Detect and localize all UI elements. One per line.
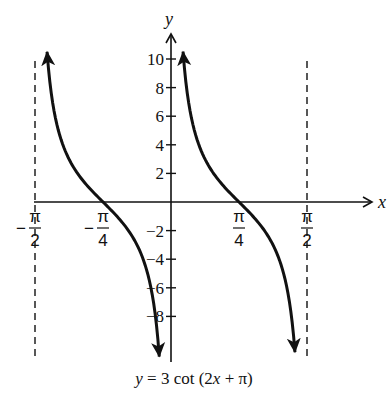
x-tick-label: π4− bbox=[84, 207, 109, 250]
y-tick-label: −4 bbox=[146, 250, 165, 269]
x-axis-label: x bbox=[377, 192, 386, 212]
x-tick-label: π4 bbox=[233, 207, 245, 250]
svg-text:−: − bbox=[16, 219, 26, 238]
y-tick-label: 8 bbox=[156, 79, 165, 98]
svg-text:π: π bbox=[301, 207, 313, 226]
x-axis-ticks: π2−π4−π4π2 bbox=[16, 207, 313, 250]
svg-text:π: π bbox=[97, 207, 109, 226]
axes bbox=[34, 34, 372, 362]
svg-text:π: π bbox=[29, 207, 41, 226]
y-tick-label: 6 bbox=[156, 107, 165, 126]
y-tick-label: 2 bbox=[156, 164, 165, 183]
y-tick-label: 10 bbox=[147, 50, 164, 69]
svg-text:π: π bbox=[233, 207, 245, 226]
svg-text:2: 2 bbox=[30, 231, 39, 250]
y-tick-label: 4 bbox=[156, 136, 165, 155]
svg-text:−: − bbox=[84, 219, 94, 238]
curve-branch-1 bbox=[47, 52, 159, 357]
svg-text:4: 4 bbox=[98, 231, 107, 250]
svg-text:2: 2 bbox=[302, 231, 311, 250]
chart-caption: y = 3 cot (2x + π) bbox=[133, 369, 252, 388]
x-tick-label: π2− bbox=[16, 207, 41, 250]
x-tick-label: π2 bbox=[301, 207, 313, 250]
cotangent-graph: 108642−2−4−6−8 π2−π4−π4π2 x y y = 3 cot … bbox=[0, 0, 390, 409]
y-tick-label: −2 bbox=[146, 222, 164, 241]
svg-text:4: 4 bbox=[234, 231, 243, 250]
y-axis-label: y bbox=[163, 9, 173, 29]
